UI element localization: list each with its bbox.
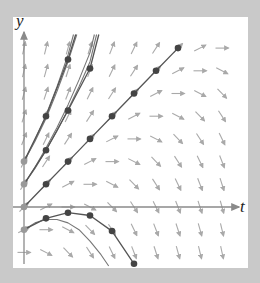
slope-arrow-icon <box>198 223 201 236</box>
slope-arrow-icon <box>62 227 74 233</box>
slope-arrow-icon <box>150 136 162 142</box>
slope-arrow-icon <box>216 68 228 74</box>
slope-arrow-icon <box>196 133 203 144</box>
slope-arrow-icon <box>40 249 52 255</box>
slope-arrow-icon <box>152 43 159 54</box>
slope-arrow-icon <box>63 248 72 257</box>
slope-arrow-icon <box>176 224 180 236</box>
slope-arrow-icon <box>44 87 48 99</box>
slope-arrow-icon <box>219 133 225 145</box>
slope-arrow-icon <box>132 246 137 258</box>
euler-point <box>131 90 138 97</box>
slope-arrow-icon <box>128 159 140 165</box>
slope-arrow-icon <box>194 91 206 97</box>
exact-solution-curve <box>24 35 94 185</box>
euler-point <box>87 65 94 72</box>
slope-arrow-icon <box>152 179 159 190</box>
slope-arrow-icon <box>176 246 179 259</box>
slope-arrow-icon <box>86 111 93 122</box>
euler-point <box>43 215 50 222</box>
slope-arrow-icon <box>220 178 224 190</box>
initial-point <box>21 226 28 233</box>
slope-arrow-icon <box>197 156 203 168</box>
slope-arrow-icon <box>220 156 225 168</box>
slope-arrow-icon <box>131 224 137 236</box>
slope-arrow-icon <box>44 65 47 78</box>
euler-polyline <box>24 213 134 264</box>
slope-arrow-icon <box>62 181 74 187</box>
slope-arrow-icon <box>195 112 204 121</box>
exact-solution-curves <box>24 35 109 267</box>
slope-arrow-icon <box>85 225 94 234</box>
slope-arrow-icon <box>130 65 137 76</box>
euler-point <box>87 212 94 219</box>
slope-arrow-icon <box>64 133 71 144</box>
euler-point <box>65 158 72 165</box>
slope-arrow-icon <box>174 156 181 167</box>
slope-arrow-icon <box>106 181 118 187</box>
euler-point <box>65 107 72 114</box>
slope-arrow-icon <box>221 246 224 259</box>
euler-point <box>43 113 50 120</box>
slope-arrow-icon <box>128 113 140 119</box>
slope-arrow-icon <box>108 88 115 99</box>
slope-arrow-icon <box>87 88 93 100</box>
slope-arrow-icon <box>217 89 226 98</box>
slope-arrow-icon <box>198 178 203 190</box>
initial-point <box>21 158 28 165</box>
slope-arrow-icon <box>110 42 115 54</box>
slope-arrow-icon <box>218 111 225 122</box>
euler-point <box>109 228 116 235</box>
euler-point <box>87 136 94 143</box>
exact-solution-curve <box>24 220 109 267</box>
slope-arrow-icon <box>42 156 49 167</box>
initial-point <box>21 181 28 188</box>
slope-arrow-icon <box>44 42 47 55</box>
slope-arrow-icon <box>173 134 182 143</box>
exact-solution-curve <box>24 35 97 185</box>
slope-arrow-icon <box>43 133 49 145</box>
slope-arrow-icon <box>172 68 184 74</box>
slope-arrow-icon <box>194 45 206 51</box>
slope-arrow-icon <box>151 157 160 166</box>
euler-point <box>65 209 72 216</box>
t-axis-label: t <box>240 198 245 215</box>
slope-arrow-icon <box>109 247 115 259</box>
slope-arrow-icon <box>175 178 181 190</box>
y-axis-label: y <box>16 12 24 29</box>
slope-arrow-icon <box>131 42 137 54</box>
slope-arrow-icon <box>129 180 138 189</box>
slope-arrow-icon <box>220 223 223 236</box>
slope-arrow-icon <box>198 246 201 259</box>
euler-point <box>131 260 138 267</box>
slope-arrow-icon <box>66 87 71 99</box>
plot-panel <box>13 17 248 268</box>
slope-arrow-icon <box>154 246 158 258</box>
euler-point <box>153 68 160 75</box>
slope-arrow-icon <box>172 113 184 119</box>
slope-arrow-icon <box>150 91 162 97</box>
euler-polyline <box>24 35 99 185</box>
slope-field-plot <box>13 17 248 268</box>
slope-arrow-icon <box>109 65 115 77</box>
slope-arrow-icon <box>86 247 93 258</box>
euler-point <box>175 45 182 52</box>
euler-point <box>109 113 116 120</box>
initial-point <box>21 204 28 211</box>
slope-arrow-icon <box>84 159 96 165</box>
euler-point <box>65 56 72 63</box>
euler-point <box>43 147 50 154</box>
slope-arrow-icon <box>106 136 118 142</box>
euler-point <box>43 181 50 188</box>
slope-arrow-icon <box>154 224 159 236</box>
